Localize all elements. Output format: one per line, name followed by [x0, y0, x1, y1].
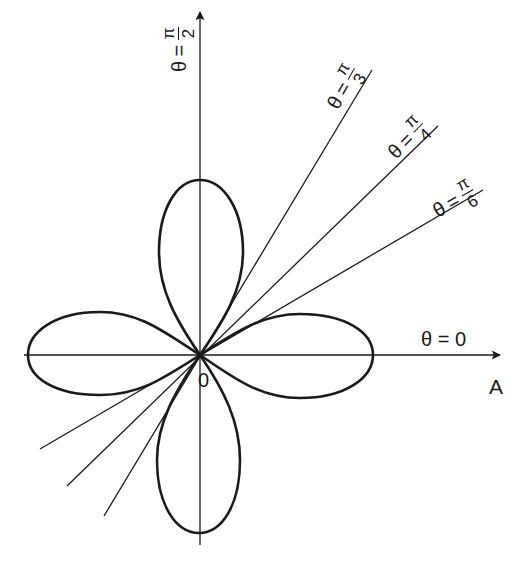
- axis-name-text: A: [489, 375, 503, 398]
- petal-right: [200, 314, 373, 398]
- origin-text: 0: [198, 369, 209, 391]
- denominator: 2: [179, 29, 197, 38]
- theta-pi-over-2-label: θ = π 2: [160, 27, 197, 72]
- theta-symbol: θ: [168, 61, 190, 72]
- petal-top: [159, 180, 243, 355]
- equals-sign: =: [168, 45, 190, 57]
- fraction: π 2: [160, 27, 197, 41]
- numerator: π: [160, 27, 179, 41]
- ray-pi-over-4: [67, 126, 438, 486]
- ray-pi-over-3: [104, 70, 372, 516]
- origin-label: 0: [198, 370, 209, 390]
- axis-name-label: A: [489, 376, 503, 397]
- theta-symbol: θ: [421, 328, 432, 350]
- polar-diagram: [0, 0, 513, 562]
- equals-sign: =: [438, 328, 450, 350]
- theta-zero-label: θ = 0: [421, 329, 466, 349]
- angle-value: 0: [455, 328, 466, 350]
